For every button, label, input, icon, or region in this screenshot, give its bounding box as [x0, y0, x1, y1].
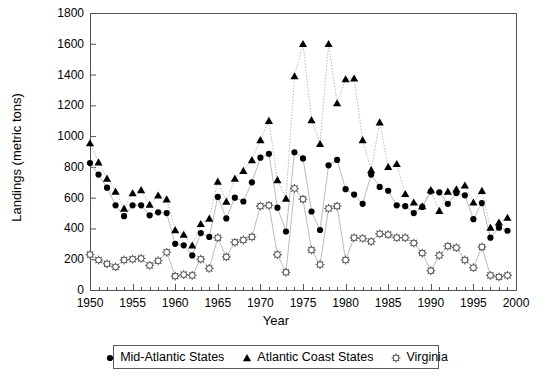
x-tick-1975: 1975: [280, 296, 326, 310]
triangle-icon: [241, 352, 253, 364]
circle-icon: [104, 352, 116, 364]
x-tick-1995: 1995: [450, 296, 496, 310]
legend-label: Virginia: [406, 350, 447, 364]
legend-item-2: Virginia: [390, 350, 447, 364]
x-tick-1950: 1950: [67, 296, 113, 310]
x-tick-1965: 1965: [195, 296, 241, 310]
star-icon: [390, 352, 402, 364]
legend-marker-triangle: [241, 352, 252, 363]
y-tick-200: 200: [44, 254, 84, 264]
legend-label: Atlantic Coast States: [257, 350, 373, 364]
legend-label: Mid-Atlantic States: [120, 350, 224, 364]
x-tick-1960: 1960: [152, 296, 198, 310]
legend-marker-circle: [104, 352, 115, 363]
y-tick-1000: 1000: [44, 131, 84, 141]
x-tick-1955: 1955: [110, 296, 156, 310]
legend-item-1: Atlantic Coast States: [241, 350, 373, 364]
y-tick-1800: 1800: [44, 8, 84, 18]
series-2: [86, 184, 512, 281]
y-tick-1400: 1400: [44, 70, 84, 80]
x-tick-1970: 1970: [237, 296, 283, 310]
y-tick-1600: 1600: [44, 39, 84, 49]
y-tick-800: 800: [44, 162, 84, 172]
x-tick-1985: 1985: [365, 296, 411, 310]
x-tick-1980: 1980: [323, 296, 369, 310]
x-tick-1990: 1990: [408, 296, 454, 310]
x-axis-title: Year: [0, 313, 552, 328]
legend-item-0: Mid-Atlantic States: [104, 350, 224, 364]
y-tick-1200: 1200: [44, 100, 84, 110]
y-tick-600: 600: [44, 193, 84, 203]
y-tick-400: 400: [44, 223, 84, 233]
x-tick-2000: 2000: [493, 296, 539, 310]
legend-marker-star: [390, 352, 401, 363]
chart-container: Landings (metric tons) 18001600140012001…: [0, 0, 552, 385]
y-tick-0: 0: [44, 285, 84, 295]
plot-frame: [91, 14, 517, 291]
chart-legend: Mid-Atlantic StatesAtlantic Coast States…: [113, 345, 439, 369]
y-axis-title: Landings (metric tons): [9, 58, 24, 258]
